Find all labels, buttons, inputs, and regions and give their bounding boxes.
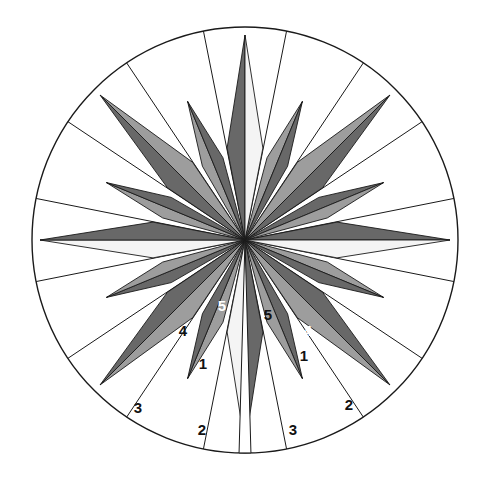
sector-number-left-5: 5: [218, 297, 226, 314]
star-points-layer: [40, 35, 450, 453]
sector-number-right-4: 4: [304, 322, 313, 339]
sector-number-right-1: 1: [300, 347, 308, 364]
compass-rose-svg: 5412354132: [0, 0, 481, 478]
compass-rose-figure: 5412354132: [0, 0, 481, 478]
sector-number-right-5: 5: [264, 306, 272, 323]
sector-number-left-4: 4: [179, 322, 188, 339]
sector-number-left-1: 1: [199, 355, 207, 372]
sector-number-left-3: 3: [134, 399, 142, 416]
sector-number-right-2: 2: [345, 396, 353, 413]
sector-number-left-2: 2: [198, 421, 206, 438]
sector-number-right-3: 3: [289, 421, 297, 438]
